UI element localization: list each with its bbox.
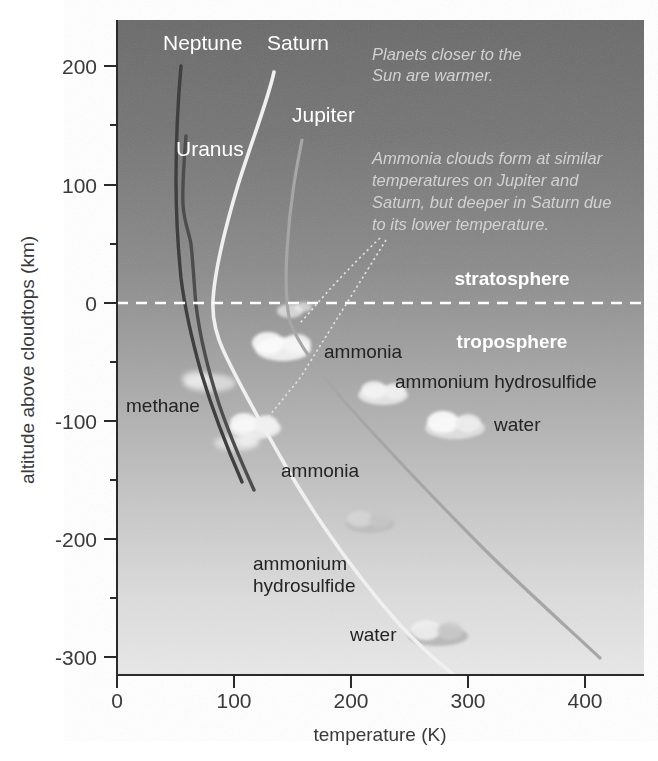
x-axis-title: temperature (K) [313, 724, 446, 745]
y-axis-title: altitude above cloudtops (km) [17, 236, 38, 484]
planet-label-jupiter: Jupiter [292, 103, 355, 126]
cloud-label-ammonia-saturn: ammonia [281, 460, 360, 481]
y-tick-label: 200 [62, 55, 97, 78]
annotation-line: Ammonia clouds form at similar [371, 149, 604, 167]
planet-label-neptune: Neptune [163, 31, 242, 54]
atmosphere-temperature-profile-figure: 200 100 0 -100 -200 -300 0 100 200 300 4… [0, 0, 658, 761]
y-tick-label: -200 [55, 528, 97, 551]
x-tick-label: 200 [333, 689, 368, 712]
cloud-label-methane: methane [126, 395, 200, 416]
y-tick-label: 100 [62, 174, 97, 197]
annotation-line: Saturn, but deeper in Saturn due [372, 193, 611, 211]
x-tick-labels: 0 100 200 300 400 [111, 689, 602, 712]
y-tick-label: -300 [55, 646, 97, 669]
x-tick-label: 0 [111, 689, 123, 712]
annotation-line: Sun are warmer. [372, 66, 493, 84]
y-tick-label: -100 [55, 410, 97, 433]
cloud-label-hydrosulfide-saturn: hydrosulfide [253, 575, 355, 596]
planet-label-saturn: Saturn [267, 31, 329, 54]
annotation-line: Planets closer to the [372, 45, 522, 63]
cloud-label-ammonium-hydrosulfide-jupiter: ammonium hydrosulfide [395, 371, 597, 392]
x-tick-label: 100 [216, 689, 251, 712]
x-tick-label: 300 [450, 689, 485, 712]
annotation-line: to its lower temperature. [372, 215, 549, 233]
planet-label-uranus: Uranus [176, 137, 244, 160]
annotation-line: temperatures on Jupiter and [372, 171, 579, 189]
y-axis-ticks [104, 66, 117, 657]
layer-label-stratosphere: stratosphere [454, 268, 569, 289]
y-tick-labels: 200 100 0 -100 -200 -300 [55, 55, 97, 669]
x-axis-ticks [117, 675, 585, 688]
y-tick-label: 0 [85, 292, 97, 315]
cloud-label-ammonia-jupiter: ammonia [324, 341, 403, 362]
layer-label-troposphere: troposphere [457, 331, 568, 352]
cloud-label-water-jupiter: water [493, 414, 541, 435]
x-tick-label: 400 [567, 689, 602, 712]
cloud-label-ammonium-saturn: ammonium [253, 553, 347, 574]
cloud-label-water-saturn: water [349, 624, 397, 645]
